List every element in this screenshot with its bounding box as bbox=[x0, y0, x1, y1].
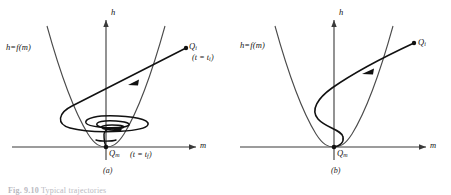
axis-h-b bbox=[331, 20, 336, 160]
curve-label-b-rhs: f(m) bbox=[250, 40, 265, 50]
subcaption-a: (a) bbox=[103, 166, 112, 175]
trajectory-b bbox=[315, 43, 414, 147]
point-label-qi-b: Qi bbox=[418, 38, 426, 47]
direction-arrow-a bbox=[128, 80, 139, 86]
point-time-qi-a: (t = ti) bbox=[192, 54, 214, 62]
point-qi-b bbox=[412, 41, 416, 45]
point-qi-a bbox=[184, 46, 188, 50]
curve-label-a-rhs: f(m) bbox=[16, 42, 31, 52]
point-qm-a bbox=[104, 145, 109, 150]
point-label-qm-b-sub: m bbox=[343, 152, 347, 158]
point-qm-b bbox=[332, 145, 337, 150]
point-time-qm-a: (t = tf) bbox=[130, 151, 152, 159]
point-label-qi-a: Qi bbox=[189, 42, 197, 51]
point-label-qi-b-sub: i bbox=[424, 41, 426, 47]
panel-a: h m h=f(m) Qi (t = ti) Qm (t = tf) (a) bbox=[0, 0, 225, 178]
subcaption-b: (b) bbox=[331, 166, 340, 175]
curve-label-b: h=f(m) bbox=[240, 41, 265, 50]
point-label-qm-a-sub: m bbox=[115, 152, 119, 158]
trajectory-a bbox=[60, 48, 186, 146]
figure-caption-number: Fig. 9.10 bbox=[8, 186, 39, 195]
direction-arrow-b bbox=[362, 69, 374, 75]
axis-m-label-b: m bbox=[430, 141, 436, 150]
axis-h-label-b: h bbox=[339, 8, 343, 17]
axis-h-label-a: h bbox=[111, 8, 115, 17]
figure-caption-text: Typical trajectories bbox=[41, 186, 106, 195]
curve-label-a: h=f(m) bbox=[6, 43, 31, 52]
point-label-qm-a: Qm bbox=[109, 149, 120, 158]
figure-root: h m h=f(m) Qi (t = ti) Qm (t = tf) (a) bbox=[0, 0, 451, 195]
axis-m-label-a: m bbox=[200, 141, 206, 150]
panel-b: h m h=f(m) Qi Qm (b) bbox=[226, 0, 451, 178]
figure-caption: Fig. 9.10 Typical trajectories bbox=[8, 186, 106, 195]
point-time-qm-a-close: ) bbox=[149, 150, 152, 159]
point-time-qm-a-text: (t = t bbox=[130, 150, 147, 159]
point-label-qi-a-sub: i bbox=[195, 45, 197, 51]
point-time-qi-a-close: ) bbox=[211, 53, 214, 62]
point-time-qi-a-text: (t = t bbox=[192, 53, 209, 62]
point-label-qm-b: Qm bbox=[337, 149, 348, 158]
